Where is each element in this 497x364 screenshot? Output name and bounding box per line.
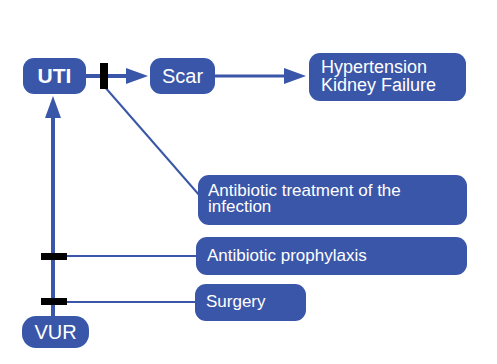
- blocker-surgery: [41, 298, 196, 305]
- node-surgery-label: Surgery: [206, 284, 306, 319]
- node-outcome-line1: Hypertension: [321, 58, 466, 76]
- node-vur: VUR: [22, 316, 89, 348]
- node-antibiotic-treatment-line2: infection: [208, 199, 467, 215]
- edge-uti-to-scar: [86, 68, 148, 84]
- node-prophylaxis-label: Antibiotic prophylaxis: [207, 237, 467, 275]
- node-scar: Scar: [150, 58, 215, 94]
- node-uti-label: UTI: [23, 58, 86, 94]
- node-outcome-line2: Kidney Failure: [321, 76, 466, 94]
- edge-scar-to-outcome: [214, 68, 306, 84]
- node-prophylaxis: Antibiotic prophylaxis: [196, 237, 467, 275]
- arrowhead-icon: [284, 68, 306, 84]
- blocker-prophylaxis: [41, 253, 196, 260]
- node-outcome: Hypertension Kidney Failure: [309, 53, 466, 101]
- arrowhead-icon: [45, 96, 61, 118]
- node-scar-label: Scar: [150, 58, 215, 94]
- node-surgery: Surgery: [195, 284, 306, 321]
- node-antibiotic-treatment: Antibiotic treatment of the infection: [198, 175, 467, 225]
- blocker-bar-icon: [41, 298, 67, 305]
- blocker-bar-icon: [41, 253, 67, 260]
- blocker-bar-icon: [100, 63, 108, 89]
- edge-vur-to-uti: [45, 96, 61, 318]
- node-vur-label: VUR: [22, 316, 89, 348]
- arrowhead-icon: [126, 68, 148, 84]
- node-uti: UTI: [23, 58, 86, 94]
